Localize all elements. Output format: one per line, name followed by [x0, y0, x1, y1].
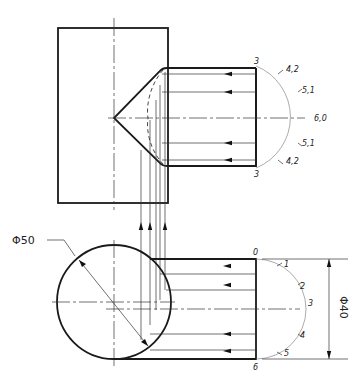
label-6-0: 6,0 [314, 114, 327, 123]
label-3-top: 3 [254, 57, 259, 66]
projection-lines [139, 72, 167, 340]
lower-view: Φ50 Φ40 0 1 2 3 4 5 6 [12, 234, 350, 372]
label-2: 2 [300, 282, 305, 291]
label-3: 3 [308, 299, 313, 308]
upper-view: 3 4,2 5,1 6,0 5,1 4,2 3 [58, 18, 327, 210]
label-0: 0 [253, 248, 258, 257]
diameter-50-label: Φ50 [12, 234, 35, 247]
diameter-40-label: Φ40 [337, 296, 350, 319]
label-5: 5 [284, 349, 289, 358]
construction-arc-upper [256, 66, 290, 168]
cone-outline [114, 68, 256, 166]
label-5-1-bottom: 5,1 [302, 139, 315, 148]
technical-drawing: 3 4,2 5,1 6,0 5,1 4,2 3 [0, 0, 356, 388]
label-4: 4 [300, 331, 305, 340]
label-3-bottom: 3 [254, 170, 259, 179]
label-5-1-top: 5,1 [302, 86, 315, 95]
label-1: 1 [284, 260, 289, 269]
label-4-2-bottom: 4,2 [286, 157, 299, 166]
label-4-2-top: 4,2 [286, 65, 299, 74]
vertical-cylinder-outline [58, 28, 168, 203]
label-6: 6 [253, 363, 258, 372]
